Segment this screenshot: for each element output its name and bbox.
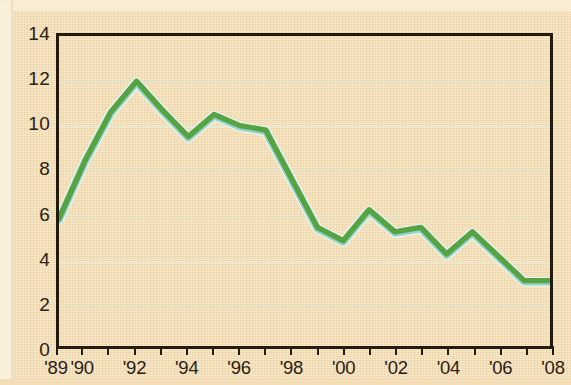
x-tick	[343, 346, 345, 355]
x-tick-label: '98	[280, 356, 304, 379]
plot-area	[56, 33, 553, 349]
x-tick	[552, 346, 554, 355]
x-tick	[290, 346, 292, 355]
x-tick	[317, 346, 319, 355]
x-tick	[474, 346, 476, 355]
x-tick-label: '02	[384, 356, 408, 379]
x-tick	[81, 346, 83, 355]
data-series-line	[59, 36, 550, 346]
x-tick-label: '00	[332, 356, 356, 379]
y-tick-label: 4	[4, 249, 50, 268]
series-line	[59, 81, 550, 280]
x-tick	[238, 346, 240, 355]
x-tick-label: '06	[489, 356, 513, 379]
x-tick	[526, 346, 528, 355]
y-axis-labels: 02468101214	[0, 33, 50, 349]
x-tick-label: '94	[175, 356, 199, 379]
x-tick-label: '04	[437, 356, 461, 379]
x-tick	[447, 346, 449, 355]
x-axis-ticks	[56, 346, 553, 355]
x-tick	[160, 346, 162, 355]
x-tick	[56, 346, 58, 355]
x-tick	[107, 346, 109, 355]
x-tick	[369, 346, 371, 355]
x-tick	[264, 346, 266, 355]
x-tick-label: '89	[44, 356, 68, 379]
x-axis-labels: '89'90'92'94'96'98'00'02'04'06'08	[0, 356, 571, 382]
x-tick-label: '92	[123, 356, 147, 379]
x-tick	[212, 346, 214, 355]
x-tick	[500, 346, 502, 355]
x-tick	[395, 346, 397, 355]
line-chart-figure: 02468101214 '89'90'92'94'96'98'00'02'04'…	[0, 0, 571, 385]
y-tick-label: 8	[4, 159, 50, 178]
scan-top-edge	[0, 0, 571, 11]
x-tick-label: '90	[70, 356, 94, 379]
y-tick-label: 2	[4, 294, 50, 313]
y-tick-label: 12	[4, 69, 50, 88]
x-tick	[186, 346, 188, 355]
x-tick	[134, 346, 136, 355]
series-edge	[59, 83, 550, 282]
x-tick-label: '08	[541, 356, 565, 379]
y-tick-label: 6	[4, 204, 50, 223]
y-tick-label: 14	[4, 24, 50, 43]
x-tick-label: '96	[227, 356, 251, 379]
y-tick-label: 10	[4, 114, 50, 133]
series-halo	[59, 83, 550, 282]
x-tick	[421, 346, 423, 355]
